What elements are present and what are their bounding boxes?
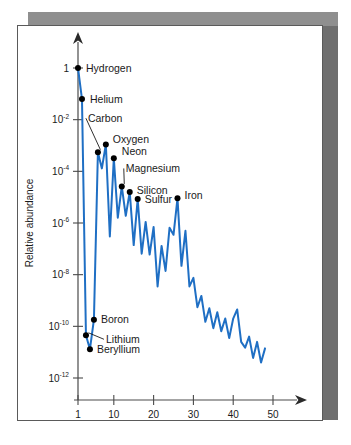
axis-title-layer: Atomic numberRelative abundance bbox=[24, 178, 216, 421]
y-tick-label: 10-6 bbox=[52, 216, 69, 229]
axes-layer: 110-210-410-610-810-1010-1211020304050 bbox=[48, 32, 307, 420]
y-tick-label: 1 bbox=[63, 63, 69, 74]
element-label: Beryllium bbox=[97, 343, 140, 355]
element-marker-dot bbox=[79, 96, 85, 102]
slab-bevel-edge bbox=[322, 26, 338, 420]
element-label: Iron bbox=[184, 189, 202, 201]
x-tick-label: 10 bbox=[108, 409, 120, 420]
element-label: Neon bbox=[122, 145, 147, 157]
element-label: Magnesium bbox=[126, 162, 181, 174]
element-marker-dot bbox=[119, 183, 125, 189]
element-marker-dot bbox=[83, 332, 89, 338]
element-marker-dot bbox=[91, 317, 97, 323]
element-marker-dot bbox=[135, 196, 141, 202]
y-tick-label: 10-2 bbox=[52, 113, 69, 126]
element-label: Sulfur bbox=[145, 193, 173, 205]
x-tick-label: 30 bbox=[188, 409, 200, 420]
y-tick-label: 10-12 bbox=[48, 371, 69, 384]
element-label: Carbon bbox=[88, 112, 123, 124]
element-label: Hydrogen bbox=[86, 62, 132, 74]
element-marker-dot bbox=[111, 155, 117, 161]
y-tick-label: 10-10 bbox=[48, 319, 69, 332]
x-tick-label: 1 bbox=[75, 409, 81, 420]
figure-frame: 110-210-410-610-810-1010-1211020304050 H… bbox=[0, 0, 351, 445]
element-marker-dot bbox=[95, 149, 101, 155]
y-tick-label: 10-4 bbox=[52, 164, 69, 177]
element-label: Oxygen bbox=[113, 133, 149, 145]
element-label: Helium bbox=[90, 93, 123, 105]
annotation-leader-line bbox=[124, 168, 125, 184]
element-label: Boron bbox=[101, 313, 129, 325]
x-tick-label: 50 bbox=[267, 409, 279, 420]
element-marker-dot bbox=[174, 195, 180, 201]
element-marker-dot bbox=[87, 346, 93, 352]
element-marker-dot bbox=[103, 141, 109, 147]
y-tick-label: 10-8 bbox=[52, 268, 69, 281]
abundance-chart: 110-210-410-610-810-1010-1211020304050 H… bbox=[17, 25, 323, 421]
element-marker-dot bbox=[75, 65, 81, 71]
element-marker-dot bbox=[127, 189, 133, 195]
x-tick-label: 20 bbox=[148, 409, 160, 420]
x-tick-label: 40 bbox=[228, 409, 240, 420]
y-axis-title: Relative abundance bbox=[24, 178, 35, 267]
